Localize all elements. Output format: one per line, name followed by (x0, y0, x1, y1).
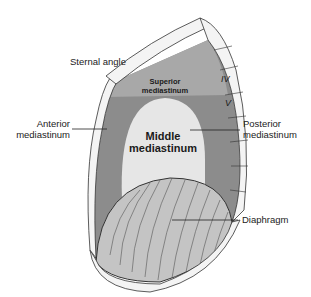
vertebra-v-label: V (225, 98, 231, 108)
label-posterior-line2: mediastinum (243, 129, 297, 140)
label-sternal-angle: Sternal angle (70, 56, 126, 67)
label-diaphragm: Diaphragm (242, 214, 288, 225)
vertebra-iv-label: IV (221, 74, 230, 84)
region-middle-line1: Middle (118, 130, 208, 142)
region-middle-line2: mediastinum (118, 142, 208, 154)
region-superior-line2: mediastinum (130, 86, 200, 95)
label-anterior-line2: mediastinum (16, 129, 70, 140)
label-posterior-line1: Posterior (243, 118, 281, 129)
region-superior-line1: Superior (130, 77, 200, 86)
label-anterior-line1: Anterior (37, 118, 70, 129)
